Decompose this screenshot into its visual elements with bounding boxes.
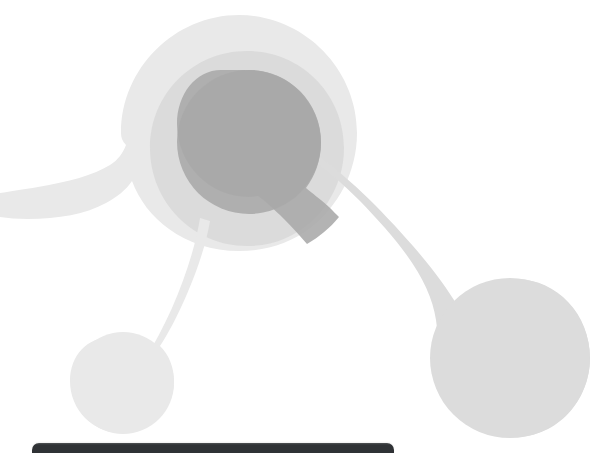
- screenshot-canvas: [0, 0, 593, 453]
- lower-right-node-blob: [430, 278, 590, 438]
- device-top-edge-bar: [32, 443, 394, 453]
- lower-left-node-circle: [72, 332, 174, 434]
- lower-right-node-circle: [430, 278, 590, 438]
- lower-left-node-blob: [72, 332, 174, 434]
- device-bar-highlight: [32, 443, 394, 445]
- network-node-graphic: [0, 0, 593, 453]
- core-node-circle: [177, 70, 321, 214]
